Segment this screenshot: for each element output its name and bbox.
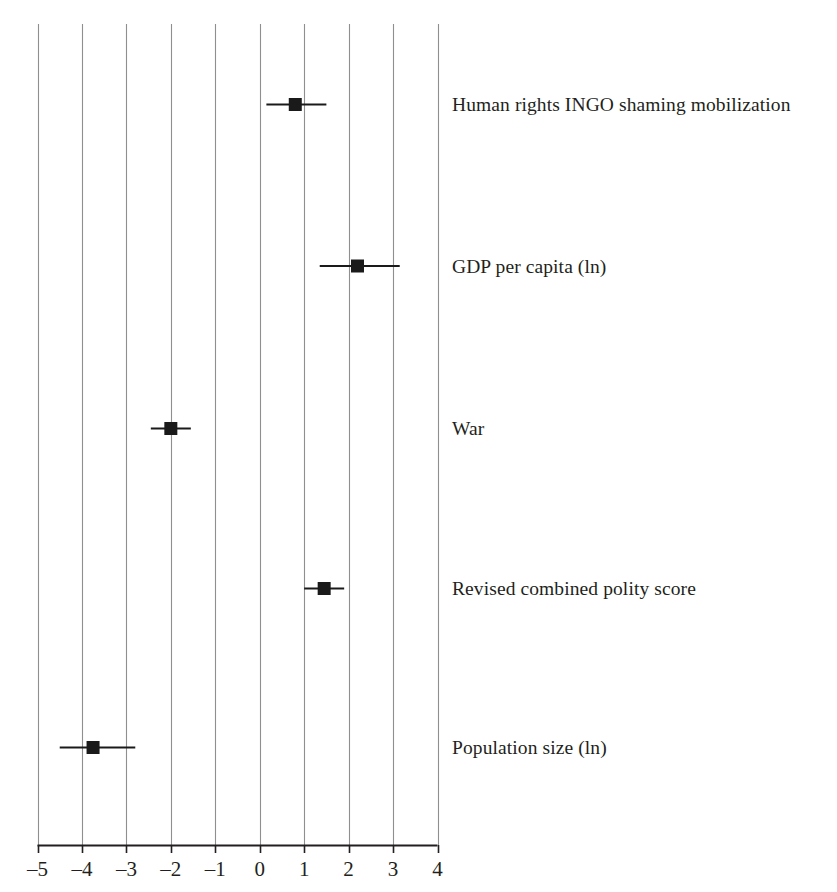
x-tick-label--1: –1 — [205, 859, 226, 880]
x-tick-label--3: –3 — [116, 859, 137, 880]
x-tick-label-4: 4 — [432, 859, 443, 880]
point-marker — [87, 741, 100, 754]
coefficient-label: GDP per capita (ln) — [452, 257, 606, 277]
x-tick-label--2: –2 — [160, 859, 181, 880]
coefficient-plot-canvas — [0, 0, 837, 892]
coefficient-label: Revised combined polity score — [452, 579, 696, 599]
x-tick-label-2: 2 — [343, 859, 354, 880]
x-tick-label-1: 1 — [299, 859, 310, 880]
coefficient-label: Population size (ln) — [452, 738, 607, 758]
coefficient-label: War — [452, 419, 484, 439]
x-tick-label-3: 3 — [388, 859, 399, 880]
coefficient-series-group — [60, 98, 400, 754]
point-marker — [289, 98, 302, 111]
point-marker — [318, 582, 331, 595]
gridline-group — [39, 24, 439, 845]
x-tick-label--4: –4 — [71, 859, 92, 880]
coefficient-label: Human rights INGO shaming mobilization — [452, 95, 791, 115]
x-tick-label--5: –5 — [27, 859, 48, 880]
coefficient-plot-figure: –5–4–3–2–101234 Human rights INGO shamin… — [0, 0, 837, 892]
x-tick-label-0: 0 — [254, 859, 265, 880]
point-marker — [164, 422, 177, 435]
point-marker — [351, 260, 364, 273]
